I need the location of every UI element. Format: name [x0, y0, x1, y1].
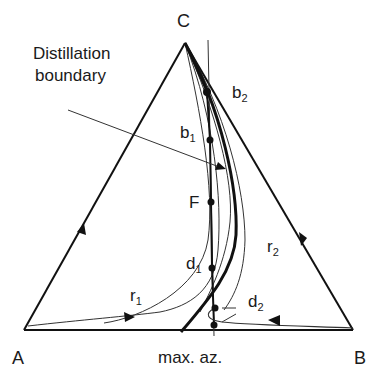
edge-ac — [24, 43, 185, 330]
d2-leader-2 — [222, 314, 236, 322]
label-f: F — [189, 194, 199, 211]
max-azeotrope-label: max. az. — [158, 349, 222, 366]
point-b1 — [207, 137, 214, 144]
vertex-b-label: B — [354, 349, 366, 367]
label-d1-sub: 1 — [195, 263, 201, 275]
annotation-arrow-icon — [215, 162, 226, 170]
point-d2 — [212, 305, 219, 312]
label-b1: b1 — [180, 124, 196, 144]
point-b2 — [203, 88, 211, 96]
label-r2: r2 — [267, 238, 279, 258]
point-d1 — [209, 265, 216, 272]
label-r2-sub: 2 — [273, 246, 279, 258]
vertex-c-label: C — [177, 12, 190, 30]
thin-curve-r1 — [28, 43, 219, 326]
label-d2-sub: 2 — [257, 301, 263, 313]
vertex-a-label: A — [12, 349, 24, 367]
label-b2: b2 — [232, 84, 248, 104]
profile-b2 — [185, 43, 207, 92]
label-d1: d1 — [186, 255, 202, 275]
label-r1: r1 — [130, 287, 142, 307]
triangle-edges — [24, 43, 353, 330]
curve-b-arrow-icon — [268, 315, 280, 326]
annotation-line1: Distillation — [33, 45, 110, 62]
point-bottom — [211, 322, 218, 329]
thin-curve-left — [104, 43, 210, 323]
label-r1-sub: 1 — [136, 295, 142, 307]
label-d2: d2 — [248, 293, 264, 313]
label-b1-sub: 1 — [189, 132, 195, 144]
annotation-leader — [68, 110, 222, 168]
annotation-line2: boundary — [35, 67, 106, 84]
point-f — [208, 199, 215, 206]
r1-arrow-icon — [124, 312, 135, 322]
label-b2-sub: 2 — [241, 92, 247, 104]
